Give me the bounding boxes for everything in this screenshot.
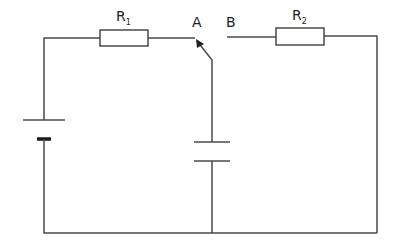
- wire-left-top: [44, 38, 100, 120]
- resistor-r1: [100, 30, 148, 46]
- r1-label: R1: [116, 8, 131, 27]
- circuit-diagram: R1 R2 A B: [0, 0, 397, 246]
- contact-b-label: B: [226, 14, 236, 30]
- contact-a-label: A: [192, 14, 202, 30]
- r2-label: R2: [292, 7, 307, 26]
- wire-right: [324, 36, 377, 233]
- switch-arrow-icon: [196, 39, 204, 48]
- switch-arm: [197, 41, 212, 142]
- wire-left-bottom: [44, 139, 377, 233]
- resistor-r2: [276, 28, 324, 45]
